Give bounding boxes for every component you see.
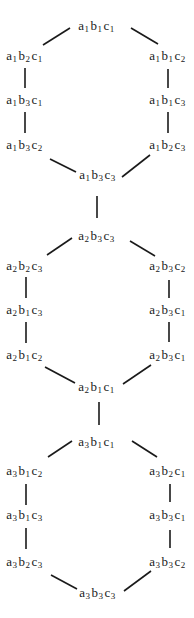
subscript: 2 [181,264,186,274]
subscript: 2 [26,560,31,570]
subscript: 2 [13,353,18,363]
variable-c: c [175,463,181,478]
node-label: a1b1c1 [78,19,116,34]
node-label: a2b3c1 [149,348,187,363]
subscript: 1 [38,54,43,64]
edge-line [47,238,72,255]
subscript: 1 [181,513,186,523]
subscript: 1 [98,440,103,450]
subscript: 1 [26,353,31,363]
subscript: 3 [169,513,174,523]
variable-c: c [175,137,181,152]
subscript: 3 [38,264,43,274]
subscript: 3 [38,513,43,523]
variable-c: c [175,554,181,569]
subscript: 3 [13,560,18,570]
subscript: 3 [111,173,116,183]
node-label: a1b3c1 [6,93,44,108]
subscript: 1 [86,173,91,183]
node-label: a2b1c3 [6,303,44,318]
edge-line [51,575,77,589]
subscript: 1 [13,54,18,64]
variable-c: c [104,228,110,243]
subscript: 2 [169,469,174,479]
subscript: 1 [181,469,186,479]
subscript: 1 [13,98,18,108]
variable-c: c [32,48,38,63]
variable-c: c [175,507,181,522]
subscript: 2 [181,560,186,570]
subscript: 1 [110,385,115,395]
node-label: a3b2c3 [6,555,44,570]
variable-c: c [32,258,38,273]
node-label: a2b3c3 [78,229,116,244]
edge-line [131,28,158,44]
variable-c: c [104,379,110,394]
subscript: 3 [110,234,115,244]
subscript: 3 [99,173,104,183]
subscript: 2 [156,353,161,363]
subscript: 3 [86,591,91,601]
subscript: 3 [169,560,174,570]
variable-c: c [175,48,181,63]
subscript: 1 [110,24,115,34]
subscript: 1 [26,308,31,318]
subscript: 1 [98,385,103,395]
subscript: 3 [99,591,104,601]
variable-c: c [105,585,111,600]
subscript: 3 [181,98,186,108]
subscript: 3 [98,234,103,244]
subscript: 2 [85,385,90,395]
subscript: 1 [85,24,90,34]
variable-c: c [105,167,111,182]
node-label: a1b1c2 [149,49,187,64]
subscript: 2 [38,469,43,479]
subscript: 1 [26,513,31,523]
node-label: a3b3c3 [79,586,117,601]
variable-c: c [32,463,38,478]
variable-c: c [32,302,38,317]
subscript: 1 [181,353,186,363]
subscript: 3 [156,513,161,523]
subscript: 3 [169,308,174,318]
node-label: a2b1c1 [78,380,116,395]
subscript: 2 [38,353,43,363]
subscript: 3 [38,308,43,318]
variable-c: c [32,507,38,522]
variable-c: c [175,92,181,107]
variable-c: c [32,137,38,152]
edge-line [132,441,157,457]
edge-line [45,367,75,383]
subscript: 3 [26,143,31,153]
subscript: 2 [26,54,31,64]
edge-line [124,571,151,591]
node-label: a2b1c2 [6,348,44,363]
variable-c: c [32,92,38,107]
node-label: a3b2c1 [149,464,187,479]
subscript: 2 [156,264,161,274]
edge-line [122,155,150,177]
node-label: a3b1c1 [78,435,116,450]
variable-c: c [32,347,38,362]
node-label: a1b3c2 [6,138,44,153]
node-label: a3b1c2 [6,464,44,479]
subscript: 3 [38,560,43,570]
node-label: a2b2c3 [6,259,44,274]
subscript: 2 [181,54,186,64]
subscript: 1 [156,98,161,108]
variable-c: c [175,258,181,273]
subscript: 1 [181,308,186,318]
subscript: 2 [13,264,18,274]
subscript: 2 [85,234,90,244]
node-label: a1b1c3 [149,93,187,108]
subscript: 2 [13,308,18,318]
node-label: a3b3c1 [149,508,187,523]
subscript: 1 [156,54,161,64]
subscript: 3 [169,264,174,274]
node-label: a2b3c1 [149,303,187,318]
variable-c: c [175,302,181,317]
subscript: 3 [26,98,31,108]
variable-c: c [175,347,181,362]
edge-line [50,159,76,172]
subscript: 2 [38,143,43,153]
